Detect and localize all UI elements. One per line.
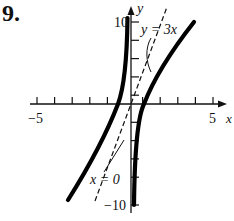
x-max-label: 5 — [209, 112, 216, 126]
y-min-label: −10 — [104, 199, 126, 213]
slant-asymptote-label: y = 3x — [141, 23, 177, 37]
vertical-asymptote-label: x = 0 — [90, 173, 120, 187]
annotation-pointer-vertical — [104, 140, 124, 172]
x-min-label: −5 — [28, 112, 43, 126]
x-axis-arrow-icon — [218, 101, 227, 108]
x-axis-label: x — [226, 112, 232, 126]
y-axis-arrow-icon — [128, 6, 135, 15]
y-max-label: 10 — [114, 16, 128, 30]
x-axis — [30, 97, 227, 108]
y-axis-label: y — [137, 2, 143, 16]
curve-right-branch — [134, 22, 194, 205]
